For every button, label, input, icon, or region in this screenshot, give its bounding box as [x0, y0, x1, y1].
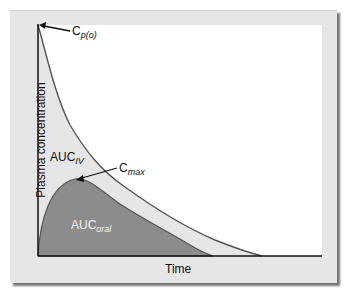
- x-axis-label: Time: [165, 262, 191, 276]
- cmax-label: Cmax: [119, 161, 145, 177]
- auc-oral-label: AUCoral: [71, 218, 111, 234]
- cp0-label: Cp(o): [72, 24, 97, 40]
- y-axis-label: Plasma concentration: [34, 75, 48, 205]
- auc-iv-label: AUCIV: [50, 150, 84, 166]
